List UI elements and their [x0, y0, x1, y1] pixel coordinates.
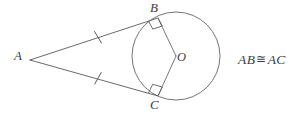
- vertex-label-c: C: [150, 98, 159, 111]
- statement-left-segment: AB: [238, 52, 255, 67]
- vertex-label-b: B: [150, 1, 158, 14]
- congruence-statement: AB≅AC: [238, 52, 286, 68]
- geometry-figure: A B C O AB≅AC: [0, 0, 301, 119]
- congruent-symbol: ≅: [255, 52, 267, 66]
- center-label-o: O: [177, 51, 186, 64]
- segment-ac: [30, 60, 158, 96]
- segment-ab: [30, 18, 158, 60]
- vertex-label-a: A: [14, 49, 22, 62]
- statement-right-segment: AC: [268, 52, 286, 67]
